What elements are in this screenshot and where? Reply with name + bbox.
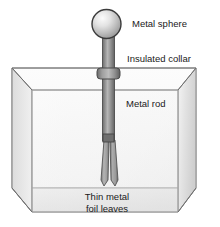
container-left-wall — [12, 68, 32, 212]
insulated-collar — [97, 68, 120, 79]
label-metal-sphere: Metal sphere — [132, 18, 187, 29]
diagram-canvas: Metal sphere Insulated collar Metal rod … — [0, 0, 220, 227]
metal-rod — [103, 33, 115, 141]
label-metal-rod: Metal rod — [126, 98, 166, 109]
electroscope-diagram: Metal sphere Insulated collar Metal rod … — [0, 0, 220, 227]
label-foil-leaves-line1: Thin metal — [85, 191, 129, 202]
container-right-wall — [178, 68, 196, 212]
label-insulated-collar: Insulated collar — [127, 53, 191, 64]
label-foil-leaves-line2: foil leaves — [86, 203, 128, 214]
metal-sphere — [92, 10, 121, 39]
rod-foot — [103, 134, 114, 142]
